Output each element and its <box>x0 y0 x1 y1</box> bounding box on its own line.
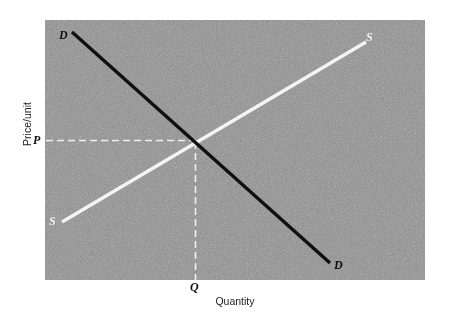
demand-curve-bottom-label: D <box>334 259 343 271</box>
demand-curve-top-label: D <box>59 29 68 41</box>
equilibrium-price-label: P <box>33 134 40 146</box>
supply-curve-top-label: S <box>366 31 373 43</box>
curves-layer <box>0 0 452 325</box>
demand-curve <box>72 32 330 263</box>
supply-demand-chart: D D S S P Q Price/unit Quantity <box>0 0 452 325</box>
supply-curve-bottom-label: S <box>49 215 56 227</box>
x-axis-title: Quantity <box>180 295 290 307</box>
y-axis-title: Price/unit <box>21 84 33 164</box>
equilibrium-quantity-label: Q <box>190 281 199 293</box>
supply-curve <box>62 42 366 222</box>
